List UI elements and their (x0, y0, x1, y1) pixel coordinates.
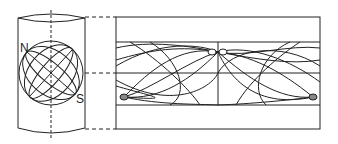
connector-lines (85, 17, 116, 129)
north-pole-marker-2 (219, 49, 227, 55)
north-pole-marker (208, 49, 216, 55)
south-pole-marker (120, 94, 128, 100)
projection-diagram: N S (0, 0, 338, 144)
south-pole-marker-2 (309, 94, 317, 100)
north-label: N (20, 41, 29, 55)
projected-map (116, 17, 320, 129)
south-label: S (76, 92, 84, 106)
